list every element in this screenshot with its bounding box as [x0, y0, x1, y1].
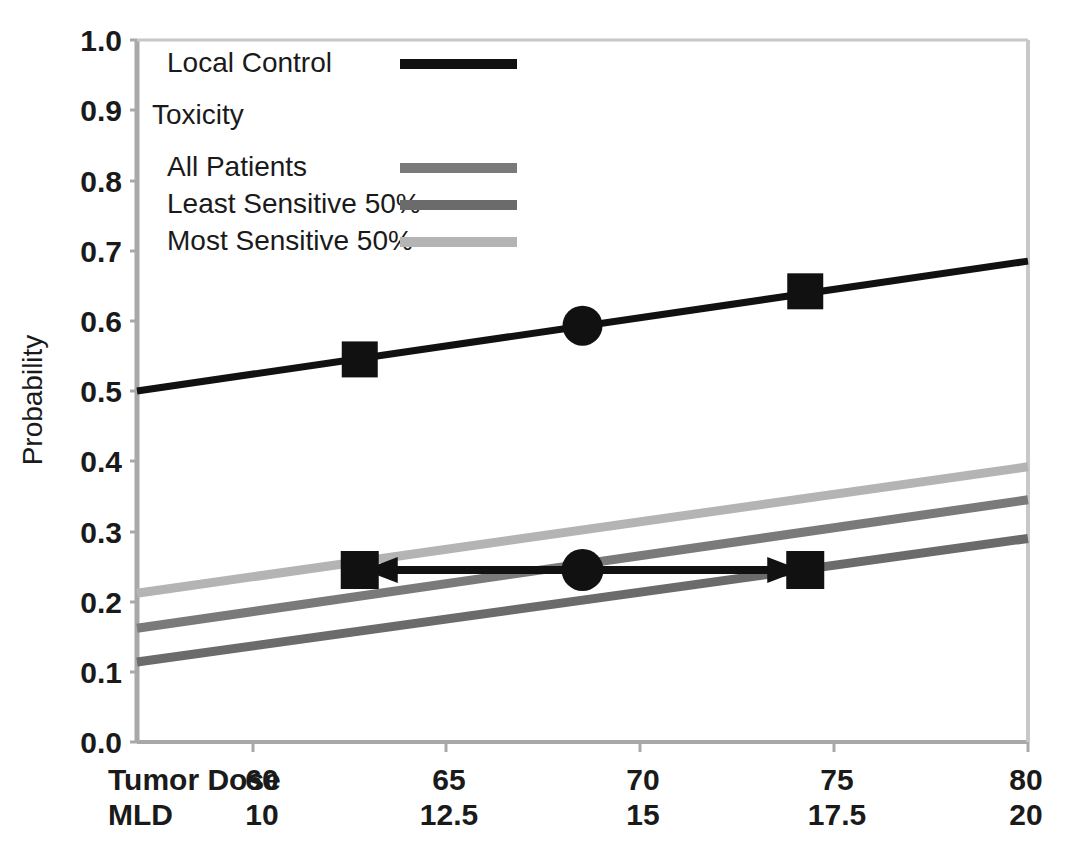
legend-swatch-least-sensitive-50-: [400, 200, 517, 210]
probability-vs-dose-chart: 1.0 0.9 0.8 0.7 0.6 0.5 0.4 0.3 0.2 0.1 …: [0, 0, 1082, 854]
legend-label-toxicity: Toxicity: [152, 99, 244, 130]
y-tick-label: 0.5: [80, 375, 122, 408]
x-tick-label-row1: 70: [626, 763, 659, 796]
y-tick-labels: 1.0 0.9 0.8 0.7 0.6 0.5 0.4 0.3 0.2 0.1 …: [80, 24, 122, 759]
x-tick-label-row2: 10: [245, 798, 278, 831]
data-marker-circle: [563, 306, 603, 346]
x-tick-label-row1: 60: [245, 763, 278, 796]
legend-swatch-most-sensitive-50-: [400, 237, 517, 247]
legend-label-least-sensitive: Least Sensitive 50%: [167, 188, 421, 219]
legend-label-most-sensitive: Most Sensitive 50%: [167, 225, 413, 256]
legend-swatch-all-patients: [400, 163, 517, 173]
x-axis-row-tumor-dose: Tumor Dose 60 65 70 75 80: [108, 763, 1043, 796]
y-tick-label: 0.3: [80, 516, 122, 549]
x-tick-label-row2: 12.5: [420, 798, 478, 831]
x-axis-row2-name: MLD: [108, 798, 173, 831]
y-tick-label: 0.6: [80, 305, 122, 338]
data-marker-square: [342, 341, 378, 377]
y-tick-label: 0.0: [80, 726, 122, 759]
x-tick-label-row1: 80: [1009, 763, 1042, 796]
x-tick-label-row2: 17.5: [808, 798, 866, 831]
annotation-marker-square: [786, 551, 824, 589]
legend: Local Control Toxicity All Patients Leas…: [152, 47, 517, 256]
y-tick-label: 1.0: [80, 24, 122, 57]
annotation-marker-circle: [562, 549, 604, 591]
annotation-marker-square: [341, 551, 379, 589]
y-tick-label: 0.7: [80, 235, 122, 268]
legend-label-all-patients: All Patients: [167, 151, 307, 182]
x-tick-label-row2: 20: [1009, 798, 1042, 831]
chart-figure: 1.0 0.9 0.8 0.7 0.6 0.5 0.4 0.3 0.2 0.1 …: [0, 0, 1082, 854]
legend-swatch-local-control: [400, 59, 517, 69]
plot-axes: [137, 40, 1028, 742]
x-tick-label-row1: 65: [432, 763, 465, 796]
x-axis-row-mld: MLD 10 12.5 15 17.5 20: [108, 798, 1043, 831]
y-tick-label: 0.8: [80, 165, 122, 198]
y-tick-label: 0.4: [80, 445, 122, 478]
series-layer: [137, 261, 1028, 662]
y-tick-label: 0.1: [80, 656, 122, 689]
x-tick-label-row1: 75: [820, 763, 853, 796]
y-tick-label: 0.9: [80, 94, 122, 127]
legend-label-local-control: Local Control: [167, 47, 332, 78]
y-axis-title: Probability: [17, 335, 48, 466]
data-marker-square: [787, 273, 823, 309]
x-tick-label-row2: 15: [626, 798, 659, 831]
y-tick-label: 0.2: [80, 586, 122, 619]
